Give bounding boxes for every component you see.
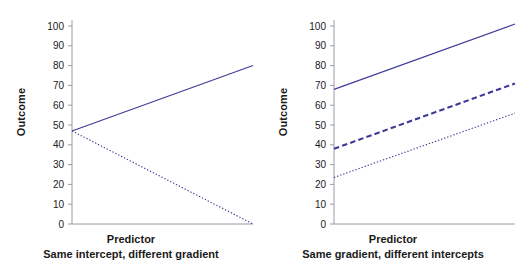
y-axis-tick-label: 50 (315, 120, 327, 131)
panel-subtitle-left: Same intercept, different gradient (0, 247, 262, 262)
chart-panel-right: 0102030405060708090100 Outcome Predictor… (262, 0, 524, 277)
caption-block-left: Predictor Same intercept, different grad… (0, 232, 262, 262)
y-axis-tick-label: 20 (315, 179, 327, 190)
y-axis-tick-label: 20 (53, 179, 65, 190)
y-axis-tick-label: 100 (47, 21, 64, 32)
y-axis-tick-label: 70 (315, 80, 327, 91)
plot-area-right: 0102030405060708090100 (262, 0, 524, 232)
plot-area-left: 0102030405060708090100 (0, 0, 262, 232)
series-line-solid (334, 24, 515, 89)
y-axis-tick-label: 10 (315, 199, 327, 210)
y-axis-tick-label: 100 (309, 21, 326, 32)
y-axis-tick-label: 40 (315, 139, 327, 150)
y-axis-tick-label: 0 (320, 219, 326, 230)
y-axis-tick-label: 90 (315, 40, 327, 51)
y-axis-tick-label: 90 (53, 40, 65, 51)
y-axis-tick-label: 40 (53, 139, 65, 150)
y-axis-tick-label: 30 (315, 159, 327, 170)
y-axis-tick-label: 50 (53, 120, 65, 131)
panel-subtitle-right: Same gradient, different intercepts (262, 247, 524, 262)
y-axis-tick-label: 30 (53, 159, 65, 170)
y-axis-tick-label: 10 (53, 199, 65, 210)
series-line-dashed (334, 83, 515, 148)
caption-block-right: Predictor Same gradient, different inter… (262, 232, 524, 262)
series-line-solid (72, 66, 253, 131)
series-line-dotted (72, 131, 253, 224)
x-axis-label-right: Predictor (262, 232, 524, 247)
chart-panel-left: 0102030405060708090100 Outcome Predictor… (0, 0, 262, 277)
y-axis-tick-label: 60 (315, 100, 327, 111)
y-axis-tick-label: 0 (58, 219, 64, 230)
y-axis-tick-label: 70 (53, 80, 65, 91)
figure-two-panel-regression: 0102030405060708090100 Outcome Predictor… (0, 0, 524, 277)
y-axis-tick-label: 80 (315, 60, 327, 71)
x-axis-label-left: Predictor (0, 232, 262, 247)
y-axis-tick-label: 80 (53, 60, 65, 71)
series-line-dotted (334, 113, 515, 177)
y-axis-tick-label: 60 (53, 100, 65, 111)
